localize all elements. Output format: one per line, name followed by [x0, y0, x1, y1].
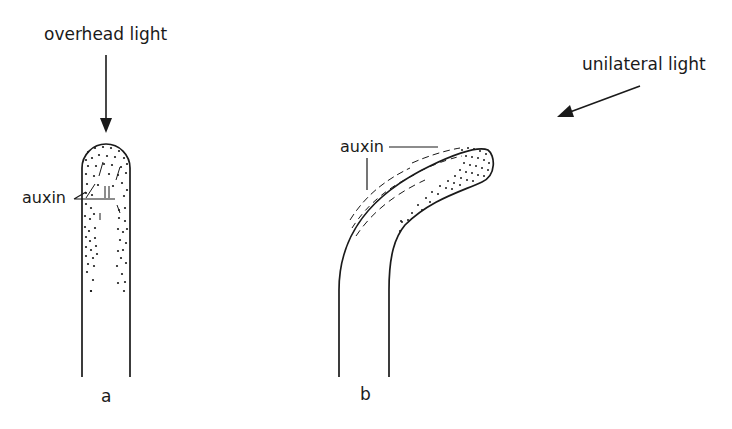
- panel-label-a: a: [101, 388, 111, 405]
- panel-label-b: b: [360, 386, 371, 403]
- auxin-dots-a: [84, 146, 128, 292]
- unilateral-light-label: unilateral light: [582, 56, 706, 73]
- auxin-label-b: auxin: [340, 139, 384, 155]
- unilateral-light-arrow-icon: [557, 86, 640, 117]
- stem-a: [74, 144, 130, 377]
- auxin-label-a: auxin: [22, 190, 66, 206]
- overhead-light-arrow-icon: [100, 55, 112, 133]
- stem-b: [339, 147, 493, 377]
- overhead-light-label: overhead light: [44, 26, 167, 43]
